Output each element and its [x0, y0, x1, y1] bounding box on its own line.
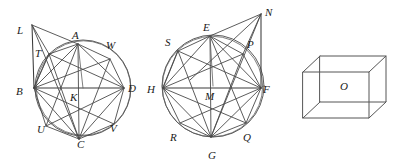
label-P: P	[246, 38, 254, 50]
geometry-figure-svg: L A W T B K D U C V	[0, 0, 396, 168]
label-E: E	[202, 21, 210, 33]
label-S: S	[165, 36, 171, 48]
label-F: F	[262, 83, 270, 95]
circle-outline-2b	[162, 36, 262, 136]
label-R: R	[169, 131, 177, 143]
label-U: U	[37, 123, 46, 135]
label-G: G	[208, 149, 216, 161]
label-K: K	[69, 91, 78, 103]
label-C: C	[77, 138, 85, 150]
label-Q: Q	[243, 131, 251, 143]
segment-CW	[79, 59, 110, 139]
segment-AC	[78, 44, 79, 139]
prism-edge-bottom-left	[303, 102, 320, 118]
label-V: V	[110, 122, 118, 134]
figure-1-circle-octagon: L A W T B K D U C V	[16, 24, 136, 150]
prism-edge-top-right	[369, 56, 386, 72]
label-D: D	[127, 82, 136, 94]
label-O: O	[340, 80, 348, 92]
label-L: L	[16, 24, 23, 36]
label-T: T	[35, 47, 42, 59]
label-H: H	[146, 83, 156, 95]
segment-DU	[46, 88, 124, 126]
figure-canvas: L A W T B K D U C V	[0, 0, 396, 168]
prism-edge-bottom-right	[369, 102, 386, 118]
prism-front-face	[303, 72, 369, 118]
segment-BW	[34, 59, 110, 88]
label-A: A	[71, 29, 79, 41]
label-W: W	[106, 39, 116, 51]
segment-LB	[32, 25, 34, 88]
prism-back-face	[320, 56, 386, 102]
segment-FR	[180, 88, 261, 123]
label-N: N	[264, 6, 273, 18]
segment-GF	[211, 88, 261, 137]
segment-AU	[46, 44, 78, 126]
segment-DT	[49, 54, 124, 88]
figure-3-rectangular-prism: O	[303, 56, 386, 118]
label-B: B	[16, 85, 23, 97]
label-M: M	[204, 90, 215, 102]
prism-edge-top-left	[303, 56, 320, 72]
figure-2-circle-octagon: N E S P H M F R G Q	[146, 6, 273, 161]
